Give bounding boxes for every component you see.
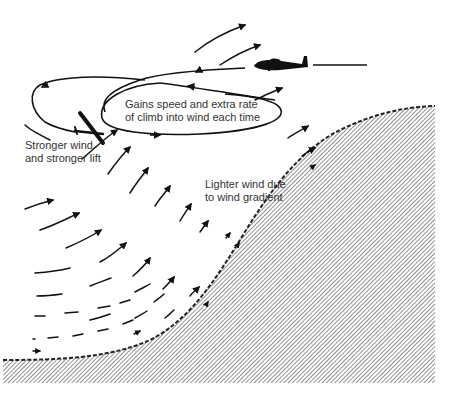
loop-note-label: Gains speed and extra rate of climb into…	[125, 98, 260, 124]
stronger-wind-line2: and stronger lift	[25, 152, 101, 165]
lighter-wind-line1: Lighter wind due	[205, 178, 286, 191]
stronger-wind-line1: Stronger wind	[25, 139, 101, 152]
loop-note-line2: of climb into wind each time	[125, 111, 260, 124]
stronger-wind-label: Stronger wind and stronger lift	[25, 139, 101, 165]
lighter-wind-line2: to wind gradient	[205, 191, 286, 204]
glider-side-view-icon	[254, 56, 308, 71]
loop-note-line1: Gains speed and extra rate	[125, 98, 260, 111]
lighter-wind-label: Lighter wind due to wind gradient	[205, 178, 286, 204]
